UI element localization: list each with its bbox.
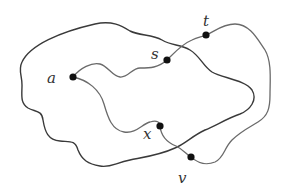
vertex-a-dot <box>69 73 76 80</box>
vertex-x-dot <box>156 122 163 129</box>
vertex-t-dot <box>202 31 209 38</box>
vertex-v-label: v <box>178 169 187 187</box>
outer-boundary-curve <box>20 23 254 167</box>
vertex-a-label: a <box>47 69 56 87</box>
path-a-x-v <box>73 77 191 157</box>
vertex-x-label: x <box>143 125 152 143</box>
vertex-s-dot <box>163 56 170 63</box>
diagram-canvas: a s t x v <box>0 0 294 189</box>
vertex-v-dot <box>187 153 194 160</box>
vertex-s-label: s <box>151 45 159 63</box>
vertex-t-label: t <box>203 12 210 30</box>
path-a-s-t-v <box>73 24 270 164</box>
